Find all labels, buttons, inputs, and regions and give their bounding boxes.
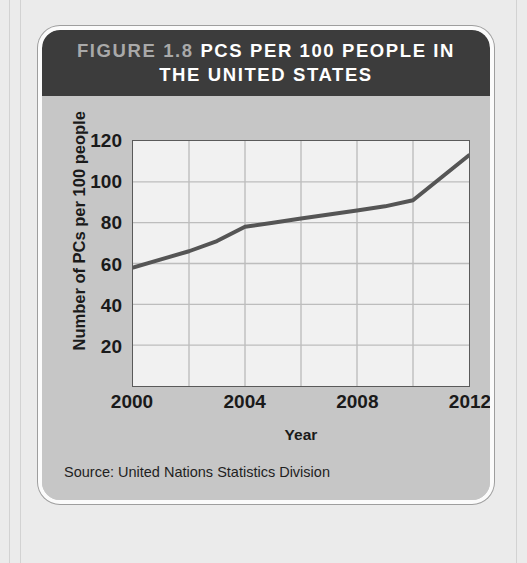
x-axis-title: Year	[132, 426, 470, 444]
figure-title-text: PCs PER 100 PEOPLE IN THE UNITED STATES	[159, 40, 455, 85]
chart-svg	[133, 141, 469, 386]
page-left-rule	[9, 0, 10, 563]
source-note: Source: United Nations Statistics Divisi…	[64, 464, 330, 480]
y-tick-label: 80	[76, 213, 122, 232]
x-tick-label: 2012	[430, 392, 494, 411]
y-tick-label: 120	[76, 131, 122, 150]
y-tick-label: 100	[76, 172, 122, 191]
page-background: FIGURE 1.8 PCs PER 100 PEOPLE IN THE UNI…	[0, 0, 527, 563]
y-tick-label: 40	[76, 296, 122, 315]
figure-header: FIGURE 1.8 PCs PER 100 PEOPLE IN THE UNI…	[42, 30, 490, 96]
figure-title: FIGURE 1.8 PCs PER 100 PEOPLE IN THE UNI…	[42, 39, 490, 88]
figure-card: FIGURE 1.8 PCs PER 100 PEOPLE IN THE UNI…	[38, 26, 494, 504]
chart-body: Number of PCs per 100 people 20406080100…	[42, 96, 490, 500]
figure-number-label: FIGURE 1.8	[77, 40, 201, 61]
x-tick-label: 2008	[317, 392, 397, 411]
y-axis-tick-labels: 20406080100120	[70, 96, 122, 500]
x-axis-tick-labels: 2000200420082012	[132, 392, 470, 418]
y-tick-label: 60	[76, 255, 122, 274]
page-right-rule	[516, 0, 517, 563]
x-tick-label: 2004	[205, 392, 285, 411]
page-left-rule-2	[20, 0, 21, 563]
plot-area	[132, 140, 470, 387]
x-tick-label: 2000	[92, 392, 172, 411]
y-tick-label: 20	[76, 337, 122, 356]
